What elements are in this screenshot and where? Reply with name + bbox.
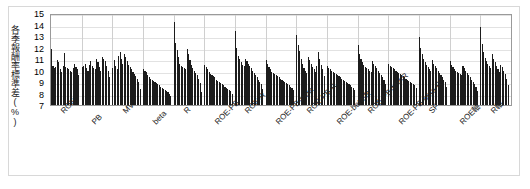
bar-group [82,15,113,105]
bar [140,89,141,105]
y-tick-label: 14 [34,21,44,30]
y-tick-label: 9 [39,79,44,88]
bar-group [450,15,481,105]
y-tick-label: 7 [39,102,44,111]
bar-group [51,15,82,105]
y-axis-tick-labels: 789101112131415 [24,14,46,106]
y-tick-label: 15 [34,10,44,19]
x-axis-category-labels: ROEPBMVbetaRROE-PBROE-RROE-PB-betaROE-PB… [50,107,512,167]
bar [109,77,110,105]
bar [170,96,171,105]
bar-group [266,15,297,105]
x-axis-label: beta [151,109,168,126]
bar [201,92,202,105]
bar [446,87,447,105]
y-tick-label: 8 [39,90,44,99]
bar-series-layer [51,15,511,105]
bar-group [480,15,511,105]
x-axis-label: R [182,105,192,115]
bar [78,75,79,105]
x-axis-label: PB [90,112,104,126]
bar-group [174,15,205,105]
bar [508,85,509,105]
y-axis-title: 各季報酬率標準差(%) [4,12,20,140]
bar-group [204,15,235,105]
y-tick-label: 13 [34,33,44,42]
chart-screenshot: 各季報酬率標準差(%) 789101112131415 ROEPBMVbetaR… [0,0,530,189]
plot-area [50,14,512,106]
y-tick-label: 11 [35,56,44,65]
bar-group [143,15,174,105]
y-tick-label: 12 [34,44,44,53]
bar-group [112,15,143,105]
y-tick-label: 10 [34,67,44,76]
